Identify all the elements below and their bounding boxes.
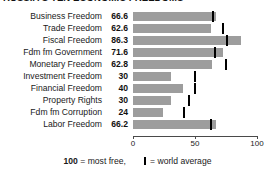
world-average-marker bbox=[210, 119, 212, 130]
chart-row: Trade Freedom 62.6 bbox=[0, 23, 275, 35]
row-label: Monetary Freedom bbox=[0, 59, 102, 70]
world-average-marker bbox=[212, 11, 214, 22]
legend-most-free-text: = most free, bbox=[80, 156, 126, 166]
value-bar bbox=[133, 48, 223, 57]
row-label: Fdm fm Corruption bbox=[0, 107, 102, 118]
chart-rows: Business Freedom 66.6 Trade Freedom 62.6… bbox=[0, 11, 275, 131]
world-average-marker bbox=[183, 107, 185, 118]
row-label: Labor Freedom bbox=[0, 119, 102, 130]
value-bar bbox=[133, 72, 171, 81]
value-bar bbox=[133, 12, 216, 21]
x-axis bbox=[133, 136, 258, 137]
world-average-marker bbox=[194, 71, 196, 82]
row-label: Financial Freedom bbox=[0, 83, 102, 94]
row-label: Fdm fm Government bbox=[0, 47, 102, 58]
legend-world-average-text: = world average bbox=[150, 156, 211, 166]
chart-row: Fdm fm Corruption 24 bbox=[0, 107, 275, 119]
legend-most-free-value: 100 bbox=[64, 156, 78, 166]
row-label: Business Freedom bbox=[0, 11, 102, 22]
bar-track bbox=[133, 11, 258, 23]
chart-row: Monetary Freedom 62.8 bbox=[0, 59, 275, 71]
world-average-marker bbox=[225, 59, 227, 70]
value-bar bbox=[133, 60, 212, 69]
bar-track bbox=[133, 23, 258, 35]
row-value: 62.8 bbox=[104, 59, 128, 70]
value-bar bbox=[133, 108, 163, 117]
row-value: 66.2 bbox=[104, 119, 128, 130]
chart-row: Financial Freedom 40 bbox=[0, 83, 275, 95]
value-bar bbox=[133, 120, 216, 129]
axis-tick-label: 100 bbox=[250, 139, 263, 148]
row-value: 86.3 bbox=[104, 35, 128, 46]
axis-tick-label: 50 bbox=[191, 139, 200, 148]
row-value: 66.6 bbox=[104, 11, 128, 22]
world-average-marker bbox=[214, 47, 216, 58]
chart-row: Property Rights 30 bbox=[0, 95, 275, 107]
bar-track bbox=[133, 35, 258, 47]
value-bar bbox=[133, 24, 211, 33]
chart-row: Fiscal Freedom 86.3 bbox=[0, 35, 275, 47]
economic-freedoms-chart: RUSSIA'S TEN ECONOMIC FREEDOMS Business … bbox=[0, 0, 275, 176]
row-label: Property Rights bbox=[0, 95, 102, 106]
row-value: 30 bbox=[104, 95, 128, 106]
row-value: 40 bbox=[104, 83, 128, 94]
chart-row: Investment Freedom 30 bbox=[0, 71, 275, 83]
row-value: 30 bbox=[104, 71, 128, 82]
value-bar bbox=[133, 36, 241, 45]
world-average-marker bbox=[194, 83, 196, 94]
row-label: Fiscal Freedom bbox=[0, 35, 102, 46]
bar-track bbox=[133, 83, 258, 95]
world-average-marker bbox=[226, 35, 228, 46]
row-value: 62.6 bbox=[104, 23, 128, 34]
axis-tick-label: 0 bbox=[131, 139, 135, 148]
chart-row: Business Freedom 66.6 bbox=[0, 11, 275, 23]
world-average-swatch-icon bbox=[144, 157, 146, 165]
value-bar bbox=[133, 96, 171, 105]
bar-track bbox=[133, 71, 258, 83]
bar-track bbox=[133, 59, 258, 71]
world-average-marker bbox=[222, 23, 224, 34]
chart-legend: 100 = most free, = world average bbox=[0, 155, 275, 167]
chart-row: Labor Freedom 66.2 bbox=[0, 119, 275, 131]
chart-title: RUSSIA'S TEN ECONOMIC FREEDOMS bbox=[3, 0, 184, 3]
value-bar bbox=[133, 84, 183, 93]
bar-track bbox=[133, 107, 258, 119]
chart-row: Fdm fm Government 71.6 bbox=[0, 47, 275, 59]
bar-track bbox=[133, 47, 258, 59]
row-label: Investment Freedom bbox=[0, 71, 102, 82]
row-value: 24 bbox=[104, 107, 128, 118]
row-label: Trade Freedom bbox=[0, 23, 102, 34]
world-average-marker bbox=[188, 95, 190, 106]
bar-track bbox=[133, 95, 258, 107]
row-value: 71.6 bbox=[104, 47, 128, 58]
bar-track bbox=[133, 119, 258, 131]
